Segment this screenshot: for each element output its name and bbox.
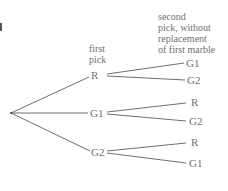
first-pick-header: first pick: [89, 43, 106, 65]
leaf-g2-r: R: [191, 137, 198, 148]
branch-root-g2: [11, 113, 90, 151]
second-pick-header: second pick, without replacement of firs…: [158, 11, 215, 55]
node-r: R: [91, 70, 98, 81]
leaf-g1-r: R: [191, 97, 198, 108]
node-g2: G2: [91, 147, 104, 158]
leaf-r-g1: G1: [186, 58, 199, 69]
branch-r-g2: [107, 76, 185, 80]
header-line: second: [158, 11, 215, 22]
header-line: replacement: [158, 33, 215, 44]
branch-g2-g1: [107, 153, 186, 163]
root-node: [10, 112, 12, 114]
branch-g2-r: [107, 143, 186, 151]
header-line: of first marble: [158, 44, 215, 55]
leaf-r-g2: G2: [187, 75, 200, 86]
branch-root-r: [11, 77, 89, 113]
header-line: first: [89, 43, 106, 54]
branch-r-g1: [107, 63, 184, 74]
header-line: pick, without: [158, 22, 215, 33]
branch-g1-g2: [107, 114, 186, 121]
branch-g1-r: [107, 103, 186, 112]
leaf-g1-g2: G2: [189, 116, 202, 127]
header-line: pick: [89, 54, 106, 65]
node-g1: G1: [90, 108, 103, 119]
leaf-g2-g1: G1: [189, 158, 202, 169]
